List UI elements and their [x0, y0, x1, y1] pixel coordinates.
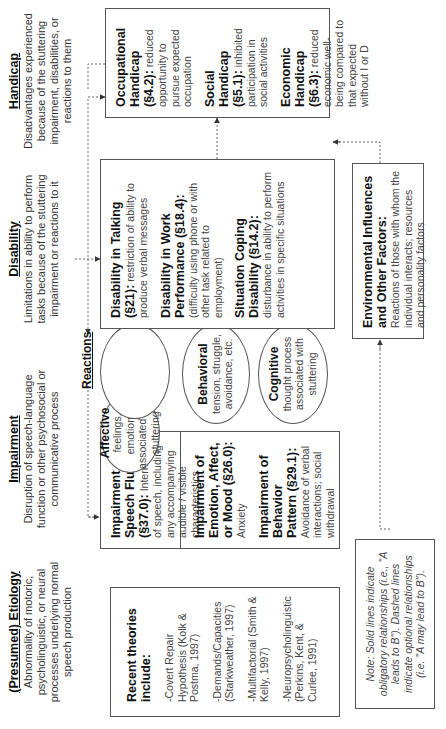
reaction-title: Behavioral — [197, 343, 210, 404]
impairment-description: Disruption of speech-language function o… — [22, 370, 60, 528]
handicap-description: Disadvantages experienced because of the… — [22, 13, 73, 149]
environment-text: Reactions of those with whom the individ… — [389, 171, 426, 328]
disability-box: Disability in Talking (§21): restriction… — [100, 159, 335, 329]
handicap-title: Handicap — [8, 6, 21, 156]
impairment-item-title: Impairment of Behavior Pattern (§29.1): — [257, 448, 299, 538]
theory-item: -Neuropsycholinguistic (Perkins, Kent, &… — [281, 596, 319, 702]
impairment-item-text: Anxiety — [235, 504, 247, 538]
reactions-label: Reactions — [80, 332, 94, 389]
environmental-influences-box: Environmental Influences and Other Facto… — [352, 163, 424, 339]
impairment-emotion-behavior: Impairment of Emotion, Affect, or Mood (… — [183, 432, 351, 548]
disability-heading: Disability Limitations in ability to per… — [8, 169, 61, 329]
theory-item: -Multifactorial (Smith & Kelly, 1997) — [246, 596, 271, 702]
handicap-heading: Handicap Disadvantages experienced becau… — [8, 6, 74, 156]
stuttering-model-diagram: (Presumed) Etiology Abnormality of motor… — [0, 0, 446, 729]
etiology-heading: (Presumed) Etiology Abnormality of motor… — [8, 547, 74, 717]
impairment-heading: Impairment Disruption of speech-language… — [8, 364, 61, 534]
theories-box: Recent theories include: -Covert Repair … — [110, 587, 340, 717]
handicap-box: Occupational Handicap (§4.2): reduced op… — [105, 8, 330, 118]
reaction-text: thought process associated with stutteri… — [281, 325, 319, 423]
reaction-text: tension, struggle, avoidance, etc. — [210, 325, 235, 423]
disability-item-title: Disability in Work Performance (§18.4): — [159, 194, 187, 318]
impairment-title: Impairment — [8, 364, 21, 534]
environment-title: Environmental Influences and Other Facto… — [361, 176, 389, 328]
theory-item: -Covert Repair Hypothesis (Kolk & Postma… — [163, 596, 201, 702]
reaction-affective-oval — [100, 324, 170, 419]
reaction-title: Affective — [99, 408, 112, 459]
impairment-item-text: Avoidance of verbal interactions; social… — [299, 446, 336, 538]
reaction-title: Cognitive — [268, 347, 281, 402]
reaction-cognitive: Cognitive thought process associated wit… — [258, 324, 328, 424]
legend-note: Note: Solid lines indicate obligatory re… — [355, 539, 435, 709]
disability-title: Disability — [8, 169, 21, 329]
disability-item-text: (difficulty using phone or with other ta… — [187, 183, 224, 318]
etiology-title: (Presumed) Etiology — [8, 547, 21, 717]
disability-description: Limitations in ability to perform tasks … — [22, 174, 60, 323]
theory-item: -Demands/Capacities (Starkweather, 1997) — [211, 596, 236, 702]
reaction-behavioral: Behavioral tension, struggle, avoidance,… — [182, 324, 250, 424]
theories-heading: Recent theories include: — [125, 596, 153, 702]
disability-item-title: Situation Coping Disability (§14.2): — [233, 215, 261, 318]
etiology-description: Abnormality of motoric, psycholinguistic… — [22, 562, 73, 703]
impairment-item-title: Impairment of Emotion, Affect, or Mood (… — [193, 441, 235, 538]
disability-item-text: disturbance in ability to perform activi… — [261, 172, 286, 318]
